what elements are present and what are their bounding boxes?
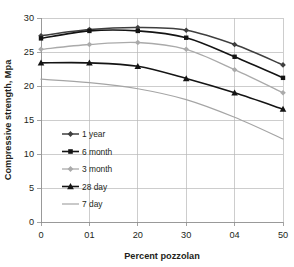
legend-label: 7 day	[82, 199, 103, 209]
y-tick-label: 10	[24, 149, 34, 159]
y-tick-label: 0	[29, 217, 34, 227]
legend-label: 28 day	[82, 182, 108, 192]
x-tick-labels: 00120300450	[38, 230, 288, 240]
x-axis-title: Percent pozzolan	[124, 251, 200, 261]
x-tick-label: 20	[133, 230, 143, 240]
compressive-strength-line-chart: 051015202530 00120300450 Percent pozzola…	[0, 0, 294, 267]
x-tick-label: 50	[278, 230, 288, 240]
x-tick-label: 04	[229, 230, 239, 240]
chart-container: 051015202530 00120300450 Percent pozzola…	[0, 0, 294, 267]
data-point-marker	[281, 76, 285, 80]
x-tick-label: 0	[38, 230, 43, 240]
y-tick-label: 25	[24, 47, 34, 57]
x-tick-label: 30	[181, 230, 191, 240]
x-tick-label: 01	[84, 230, 94, 240]
y-tick-label: 15	[24, 115, 34, 125]
data-point-marker	[39, 36, 43, 40]
y-tick-label: 30	[24, 13, 34, 23]
y-axis-title: Compressive strength, Mpa	[3, 59, 13, 180]
legend-label: 6 month	[82, 147, 113, 157]
y-tick-labels: 051015202530	[24, 13, 34, 227]
y-tick-label: 20	[24, 81, 34, 91]
y-tick-label: 5	[29, 183, 34, 193]
legend-label: 1 year	[82, 129, 105, 139]
legend-label: 3 month	[82, 164, 113, 174]
legend-marker-icon	[68, 149, 73, 154]
data-point-marker	[232, 55, 236, 59]
data-point-marker	[136, 29, 140, 33]
data-point-marker	[87, 29, 91, 33]
data-point-marker	[184, 36, 188, 40]
